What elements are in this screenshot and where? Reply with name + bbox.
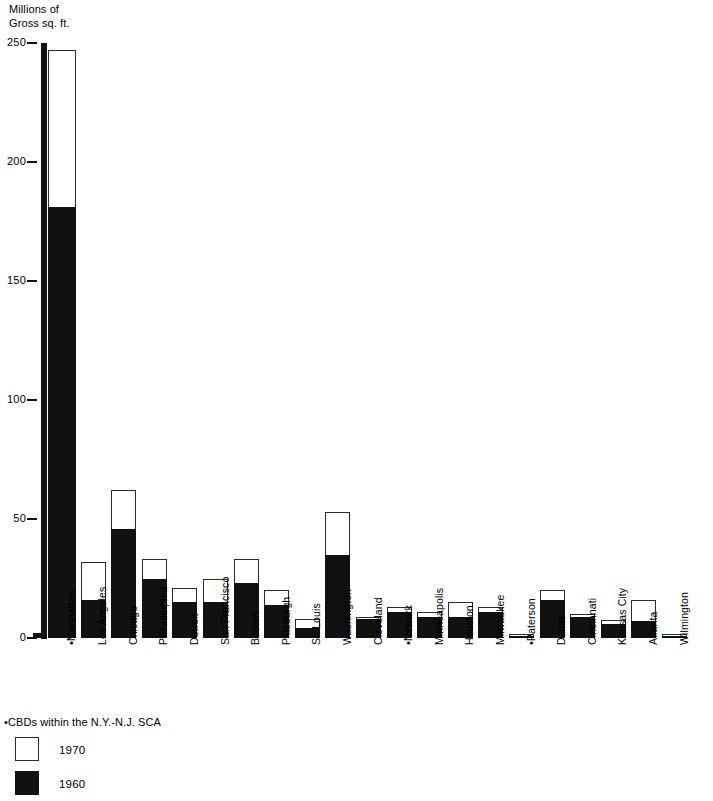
bar-group[interactable] — [203, 43, 228, 638]
x-category-label: Los Angeles — [97, 587, 108, 645]
bar-group[interactable] — [81, 43, 106, 638]
bar-group[interactable] — [142, 43, 167, 638]
bar-group[interactable] — [509, 43, 534, 638]
y-tick-label: 200 — [0, 156, 26, 167]
bar-group[interactable] — [417, 43, 442, 638]
cbd-marker-dot: • — [65, 641, 77, 645]
x-category-label: Philadelphia — [158, 587, 169, 645]
y-tick-label: 0 — [0, 632, 26, 643]
y-tick-label: 250 — [0, 37, 26, 48]
bar-group[interactable] — [264, 43, 289, 638]
x-category-label: Detroit — [189, 613, 200, 645]
bar-group[interactable] — [356, 43, 381, 638]
y-tick-label: 50 — [0, 513, 26, 524]
bar-group[interactable] — [601, 43, 626, 638]
x-category-label: •Newark — [403, 605, 414, 645]
x-category-label: Milwaukee — [495, 594, 506, 645]
bar-group[interactable] — [172, 43, 197, 638]
y-axis-title: Millions of Gross sq. ft. — [9, 3, 70, 30]
bar-group[interactable] — [387, 43, 412, 638]
x-category-label: Pittsburgh — [281, 597, 292, 645]
plot-area — [41, 43, 709, 638]
x-category-label: Kansas City — [617, 588, 628, 645]
bar-group[interactable] — [662, 43, 687, 638]
bar-1960[interactable] — [48, 207, 76, 638]
y-tick-label: 100 — [0, 394, 26, 405]
bar-group[interactable] — [234, 43, 259, 638]
x-category-label: Cincinnati — [587, 598, 598, 645]
y-tick-label: 150 — [0, 275, 26, 286]
bar-group[interactable] — [448, 43, 473, 638]
x-category-label: •Paterson — [526, 598, 537, 645]
bar-group[interactable] — [570, 43, 595, 638]
x-category-label: San Francisco — [220, 577, 231, 645]
legend-swatch-1960 — [15, 771, 39, 795]
cbd-office-space-bar-chart: Millions of Gross sq. ft. 05010015020025… — [0, 0, 713, 801]
x-category-label: Cleveland — [373, 597, 384, 645]
y-tick-mark — [27, 518, 37, 520]
bar-group[interactable] — [111, 43, 136, 638]
cbd-marker-dot: • — [402, 641, 414, 645]
legend-label-1970: 1970 — [59, 744, 85, 756]
x-category-label: Atlanta — [648, 612, 659, 645]
bar-group[interactable] — [631, 43, 656, 638]
x-category-label: Washington — [342, 589, 353, 645]
x-category-label: Wilmington — [679, 592, 690, 645]
y-tick-mark — [27, 280, 37, 282]
x-category-label: Dallas — [556, 615, 567, 645]
x-category-label: Minneapolis — [434, 588, 445, 645]
y-tick-mark — [27, 637, 37, 639]
cbd-marker-dot: • — [525, 641, 537, 645]
x-category-label: Chicago — [128, 606, 139, 645]
x-category-label: St. Louis — [311, 603, 322, 645]
y-tick-mark — [27, 42, 37, 44]
legend-footnote: •CBDs within the N.Y.-N.J. SCA — [4, 716, 161, 729]
bar-group[interactable] — [540, 43, 565, 638]
legend-swatch-1970 — [15, 737, 39, 761]
bar-group[interactable] — [295, 43, 320, 638]
y-tick-mark — [27, 161, 37, 163]
bar-group[interactable] — [48, 43, 76, 638]
x-category-label: Houston — [464, 605, 475, 645]
x-category-label: Boston — [250, 612, 261, 645]
bar-group[interactable] — [478, 43, 503, 638]
x-category-label: •Manhattan — [66, 591, 77, 645]
bar-group[interactable] — [325, 43, 350, 638]
legend-label-1960: 1960 — [59, 778, 85, 790]
y-tick-mark — [27, 399, 37, 401]
